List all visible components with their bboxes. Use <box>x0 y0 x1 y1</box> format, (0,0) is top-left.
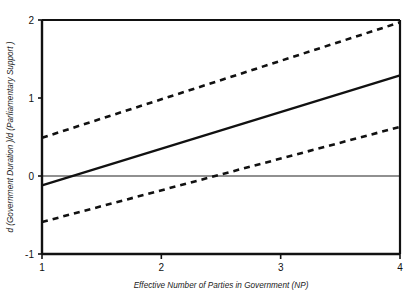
y-axis-ticks: -1012 <box>25 15 42 260</box>
chart-figure: -1012 1234 Effective Number of Parties i… <box>0 0 418 296</box>
marginal-effect-plot: -1012 1234 Effective Number of Parties i… <box>0 0 418 296</box>
y-tick-label: 0 <box>28 171 34 182</box>
x-tick-label: 2 <box>159 262 165 273</box>
y-tick-label: -1 <box>25 249 34 260</box>
x-axis-label: Effective Number of Parties in Governmen… <box>134 281 309 290</box>
y-tick-label: 2 <box>28 15 34 26</box>
x-tick-label: 4 <box>397 262 403 273</box>
x-axis-ticks: 1234 <box>39 254 403 273</box>
x-tick-label: 1 <box>39 262 45 273</box>
y-axis-label: d (Government Duration )/d (Parliamentar… <box>6 41 15 232</box>
plot-area-background <box>42 20 400 254</box>
x-tick-label: 3 <box>278 262 284 273</box>
y-tick-label: 1 <box>28 93 34 104</box>
